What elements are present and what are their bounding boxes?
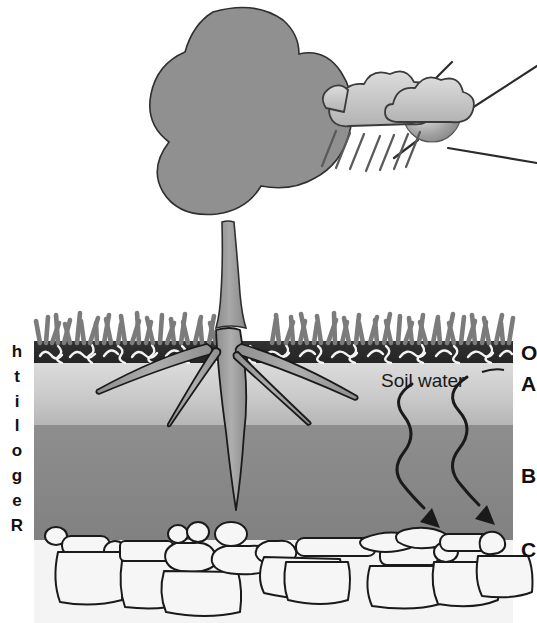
regolith-letter-g: g: [0, 464, 34, 489]
regolith-letter-o: o: [0, 439, 34, 464]
soil-water-label: Soil water: [381, 370, 464, 392]
horizon-label-c: C: [521, 538, 536, 562]
regolith-vertical-label: h t i l o g e R: [0, 340, 34, 539]
regolith-letter-e: e: [0, 489, 34, 514]
regolith-letter-i: i: [0, 390, 34, 415]
horizon-b: [34, 425, 513, 540]
horizon-label-a: A: [521, 372, 536, 396]
regolith-letter-h: h: [0, 340, 34, 365]
tree-canopy: [150, 8, 353, 215]
regolith-letter-t: t: [0, 365, 34, 390]
soil-profile-illustration: [0, 0, 537, 623]
regolith-letter-l: l: [0, 414, 34, 439]
regolith-letter-r: R: [0, 514, 34, 539]
horizon-label-b: B: [521, 464, 536, 488]
soil-profile-figure: h t i l o g e R O A B C Soil water: [0, 0, 537, 623]
tree-trunk: [216, 221, 246, 328]
grass-tufts: [36, 313, 513, 343]
horizon-label-o: O: [521, 341, 537, 365]
